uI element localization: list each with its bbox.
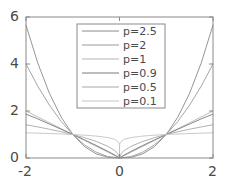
legend-label-p-0-1: p=0.1 [123, 95, 157, 108]
y-tick-label-4: 4 [10, 56, 19, 70]
y-tick-label-2: 2 [10, 103, 19, 117]
x-tick-label-2: 2 [208, 164, 217, 178]
legend-label-p-2: p=2 [123, 39, 146, 52]
legend-label-p-0-5: p=0.5 [123, 81, 157, 94]
legend: p=2.5p=2p=1p=0.9p=0.5p=0.1 [77, 24, 165, 108]
legend-label-p-0-9: p=0.9 [123, 67, 157, 80]
figure-container: p=2.5p=2p=1p=0.9p=0.5p=0.1 6 4 2 0 -2 0 … [0, 0, 229, 193]
legend-label-p-1: p=1 [123, 53, 146, 66]
legend-label-p-2-5: p=2.5 [123, 25, 157, 38]
y-tick-label-6: 6 [10, 9, 19, 23]
x-tick-label-0: 0 [115, 164, 124, 178]
x-tick-label-neg2: -2 [18, 164, 32, 178]
y-tick-label-0: 0 [10, 150, 19, 164]
